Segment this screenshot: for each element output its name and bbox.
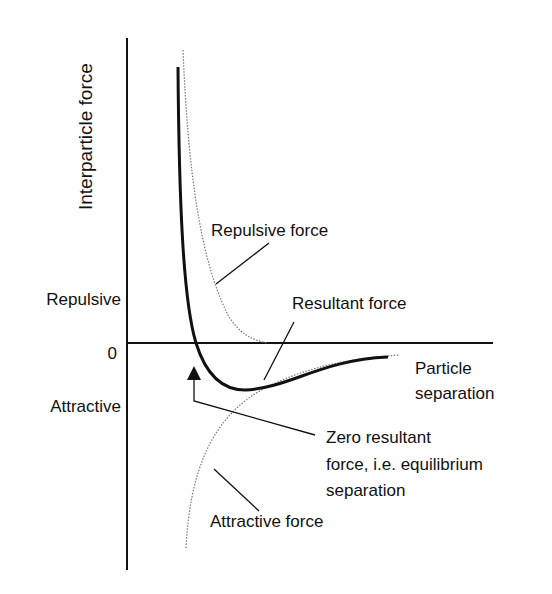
attractive-leader xyxy=(214,469,259,511)
equilibrium-label-line2: force, i.e. equilibrium xyxy=(326,455,483,474)
region-attractive-label: Attractive xyxy=(50,397,121,416)
force-separation-diagram: Interparticle force Repulsive 0 Attracti… xyxy=(0,0,552,594)
equilibrium-label-line3: separation xyxy=(326,481,405,500)
attractive-force-label: Attractive force xyxy=(210,512,323,531)
repulsive-leader xyxy=(216,243,269,284)
equilibrium-label-line1: Zero resultant xyxy=(326,428,431,447)
repulsive-force-label: Repulsive force xyxy=(211,221,328,240)
resultant-force-label: Resultant force xyxy=(292,294,406,313)
equilibrium-arrow-icon xyxy=(187,366,201,380)
resultant-leader xyxy=(264,322,294,380)
region-repulsive-label: Repulsive xyxy=(46,290,121,309)
y-axis-label: Interparticle force xyxy=(75,63,96,210)
equilibrium-leader xyxy=(194,378,315,435)
x-axis-label-line2: separation xyxy=(415,384,494,403)
region-zero-label: 0 xyxy=(108,344,117,363)
x-axis-label-line1: Particle xyxy=(415,359,472,378)
repulsive-force-curve xyxy=(183,50,268,343)
